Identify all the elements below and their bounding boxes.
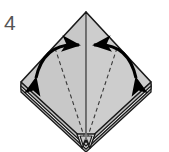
origami-figure — [0, 0, 169, 152]
origami-diagram-step: 4 — [0, 0, 169, 152]
